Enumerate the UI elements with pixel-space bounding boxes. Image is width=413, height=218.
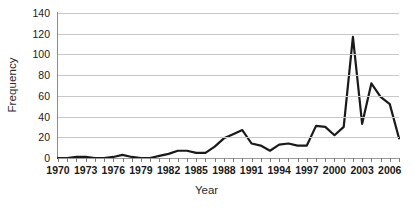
x-axis-tick-mark — [270, 158, 271, 162]
x-axis-tick-label: 1982 — [157, 164, 180, 176]
x-axis-tick-label: 1973 — [74, 164, 97, 176]
x-axis-tick-mark — [224, 158, 225, 162]
plot-area — [58, 13, 399, 158]
x-axis-tick-mark — [307, 158, 308, 162]
x-axis-tick-mark — [390, 158, 391, 162]
x-axis-tick-mark — [76, 158, 77, 162]
gridline — [58, 54, 399, 55]
x-axis-tick-label: 2003 — [350, 164, 373, 176]
x-axis-tick-mark — [215, 158, 216, 162]
x-axis-tick-mark — [261, 158, 262, 162]
x-axis-tick-mark — [150, 158, 151, 162]
x-axis-tick-mark — [95, 158, 96, 162]
y-axis-tick-label: 0 — [44, 152, 50, 164]
y-axis-tick-label: 120 — [32, 28, 50, 40]
x-axis-tick-mark — [399, 158, 400, 162]
gridline — [58, 96, 399, 97]
x-axis-tick-mark — [205, 158, 206, 162]
x-axis-tick-mark — [187, 158, 188, 162]
x-axis-tick-mark — [316, 158, 317, 162]
x-axis-tick-mark — [113, 158, 114, 162]
x-axis-tick-label: 1985 — [185, 164, 208, 176]
x-axis-tick-marks — [58, 158, 399, 163]
x-axis-tick-mark — [178, 158, 179, 162]
x-axis-tick-mark — [362, 158, 363, 162]
y-axis-tick-label: 60 — [38, 90, 50, 102]
y-axis-tick-label: 40 — [38, 111, 50, 123]
x-axis-tick-mark — [381, 158, 382, 162]
x-axis-tick-mark — [298, 158, 299, 162]
x-axis-tick-label: 1976 — [102, 164, 125, 176]
x-axis-tick-mark — [371, 158, 372, 162]
gridline — [58, 75, 399, 76]
gridline — [58, 137, 399, 138]
x-axis-tick-mark — [288, 158, 289, 162]
gridline — [58, 13, 399, 14]
y-axis-title: Frequency — [0, 0, 24, 170]
x-axis-tick-label: 2000 — [323, 164, 346, 176]
x-axis-tick-mark — [334, 158, 335, 162]
x-axis-tick-labels: 1970197319761979198219851988199119941997… — [0, 164, 413, 180]
x-axis-tick-mark — [169, 158, 170, 162]
gridline — [58, 117, 399, 118]
y-axis-tick-label: 100 — [32, 48, 50, 60]
x-axis-tick-mark — [123, 158, 124, 162]
gridline — [58, 34, 399, 35]
x-axis-tick-mark — [344, 158, 345, 162]
x-axis-tick-mark — [86, 158, 87, 162]
x-axis-tick-label: 1991 — [240, 164, 263, 176]
y-axis-tick-label: 140 — [32, 7, 50, 19]
y-axis-tick-label: 80 — [38, 69, 50, 81]
x-axis-tick-mark — [242, 158, 243, 162]
y-axis-tick-labels: 140120100806040200 — [24, 0, 54, 170]
x-axis-tick-label: 1997 — [295, 164, 318, 176]
x-axis-tick-label: 1970 — [46, 164, 69, 176]
x-axis-tick-label: 1994 — [268, 164, 291, 176]
x-axis-tick-mark — [252, 158, 253, 162]
x-axis-tick-mark — [325, 158, 326, 162]
x-axis-tick-mark — [196, 158, 197, 162]
y-axis-title-text: Frequency — [6, 57, 18, 112]
x-axis-tick-mark — [353, 158, 354, 162]
x-axis-tick-mark — [233, 158, 234, 162]
x-axis-tick-label: 1988 — [212, 164, 235, 176]
x-axis-tick-mark — [279, 158, 280, 162]
x-axis-tick-mark — [159, 158, 160, 162]
chart-figure: Frequency 140120100806040200 19701973197… — [0, 0, 413, 218]
x-axis-title: Year — [0, 184, 413, 196]
x-axis-tick-mark — [58, 158, 59, 162]
x-axis-tick-label: 1979 — [129, 164, 152, 176]
x-axis-tick-mark — [141, 158, 142, 162]
x-axis-tick-mark — [104, 158, 105, 162]
x-axis-tick-label: 2006 — [378, 164, 401, 176]
frequency-line-series — [58, 13, 399, 158]
x-axis-tick-mark — [132, 158, 133, 162]
y-axis-tick-label: 20 — [38, 131, 50, 143]
x-axis-tick-mark — [67, 158, 68, 162]
